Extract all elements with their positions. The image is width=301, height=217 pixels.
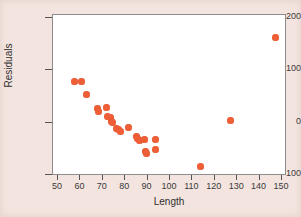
scatter-point bbox=[83, 91, 90, 98]
y-tick-mark bbox=[45, 17, 52, 18]
x-tick-mark bbox=[124, 175, 125, 180]
scatter-point bbox=[95, 108, 102, 115]
scatter-point bbox=[197, 163, 204, 170]
x-tick-mark bbox=[169, 175, 170, 180]
scatter-point bbox=[227, 117, 234, 124]
scatter-point bbox=[125, 124, 132, 131]
x-tick-mark bbox=[259, 175, 260, 180]
x-tick-mark bbox=[147, 175, 148, 180]
y-tick-mark bbox=[45, 69, 52, 70]
scatter-point bbox=[152, 136, 159, 143]
figure-panel: Residuals Length -1000100200 50607080901… bbox=[0, 0, 301, 217]
scatter-point bbox=[152, 146, 159, 153]
x-tick-label: 150 bbox=[268, 181, 294, 191]
x-tick-mark bbox=[214, 175, 215, 180]
scatter-point bbox=[143, 150, 150, 157]
scatter-point bbox=[103, 104, 110, 111]
x-tick-mark bbox=[79, 175, 80, 180]
y-axis-title: Residuals bbox=[3, 31, 14, 101]
plot-area bbox=[52, 14, 286, 175]
x-tick-mark bbox=[281, 175, 282, 180]
scatter-point bbox=[141, 136, 148, 143]
x-tick-mark bbox=[102, 175, 103, 180]
scatter-point bbox=[272, 34, 279, 41]
x-axis-title: Length bbox=[52, 196, 286, 207]
x-tick-mark bbox=[236, 175, 237, 180]
y-tick-mark bbox=[45, 122, 52, 123]
x-tick-mark bbox=[191, 175, 192, 180]
scatter-point bbox=[117, 128, 124, 135]
scatter-point bbox=[78, 78, 85, 85]
x-tick-mark bbox=[57, 175, 58, 180]
y-tick-mark bbox=[45, 174, 52, 175]
